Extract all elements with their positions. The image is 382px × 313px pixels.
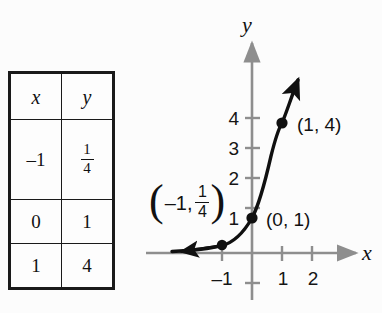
data-point-1-4 (276, 117, 287, 128)
table-cell-x-row3-value: 1 (11, 244, 61, 287)
value-table: x y –1 1 4 (8, 71, 115, 290)
y-tick-label-4: 4 (228, 108, 239, 129)
label-open-paren: ( (149, 184, 164, 218)
exponential-graph: y x 4 3 2 1 –1 1 2 (1, 4) (0, 1) (140, 0, 382, 313)
figure-root: x y –1 1 4 (0, 0, 382, 313)
table-cell-y-row1: 1 4 (62, 120, 113, 200)
x-tick-label-1: 1 (278, 268, 289, 289)
table-cell-y-row3: 4 (62, 243, 113, 287)
table-cell-x-row2: 0 (11, 199, 62, 243)
table-row: 0 1 (11, 199, 113, 243)
table-cell-x-row3: 1 (11, 243, 62, 287)
label-close-paren: ) (210, 184, 225, 218)
fraction-numerator: 1 (81, 142, 93, 158)
data-point-neg1 (217, 240, 227, 250)
fraction-one-fourth: 1 4 (81, 142, 94, 177)
table-header-row: x y (11, 74, 113, 120)
y-tick-label-1: 1 (228, 208, 239, 229)
data-point-0-1 (246, 212, 257, 223)
table-row: 1 4 (11, 243, 113, 287)
x-axis-label: x (361, 240, 372, 265)
point-label-0-1: (0, 1) (266, 209, 310, 230)
x-tick-label-2: 2 (308, 268, 319, 289)
table-row: –1 1 4 (11, 120, 113, 200)
label-x-value: –1, (165, 193, 193, 213)
graph-svg: y x 4 3 2 1 –1 1 2 (1, 4) (0, 1) (140, 0, 382, 313)
fraction-denominator: 4 (81, 161, 93, 177)
table-header-x: x (11, 74, 62, 120)
x-tick-label-neg1: –1 (211, 268, 232, 289)
point-label-1-4: (1, 4) (297, 114, 341, 135)
table-cell-y-row2: 1 (62, 199, 113, 243)
table-cell-x-row2-value: 0 (11, 200, 61, 243)
label-fraction-denominator: 4 (196, 204, 209, 221)
y-tick-label-3: 3 (228, 138, 239, 159)
table-cell-y-row1-value: 1 4 (62, 120, 112, 199)
value-table-grid: x y –1 1 4 (10, 73, 113, 288)
table-header-x-label: x (11, 74, 61, 119)
y-axis-label: y (240, 12, 252, 37)
label-fraction-one-fourth: 1 4 (195, 184, 209, 221)
table-cell-y-row2-value: 1 (62, 200, 112, 243)
point-label-neg1-quarter: ( –1, 1 4 ) (149, 184, 225, 221)
label-fraction-numerator: 1 (196, 184, 209, 201)
table-header-y-label: y (62, 74, 112, 119)
table-cell-x-row1: –1 (11, 120, 62, 200)
y-tick-label-2: 2 (228, 168, 239, 189)
table-cell-x-row1-value: –1 (11, 120, 61, 199)
label-body: –1, 1 4 (164, 184, 211, 221)
table-header-y: y (62, 74, 113, 120)
table-cell-y-row3-value: 4 (62, 244, 112, 287)
